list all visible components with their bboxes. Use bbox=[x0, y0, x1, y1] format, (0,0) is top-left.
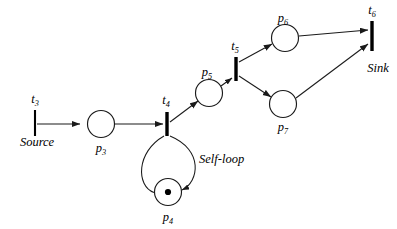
arc-layer bbox=[37, 30, 368, 193]
label-t6: t6 bbox=[368, 3, 376, 19]
arc-t4-p5 bbox=[170, 101, 198, 122]
label-p4: p4 bbox=[162, 210, 173, 226]
label-p6: p6 bbox=[277, 11, 289, 27]
label-layer: t3 t4 t5 t6 p3 p4 p5 p6 bbox=[20, 3, 389, 226]
label-p5: p5 bbox=[201, 65, 212, 81]
arc-t5-p7 bbox=[239, 76, 271, 97]
label-p7: p7 bbox=[277, 120, 289, 136]
arc-t5-p6 bbox=[239, 44, 272, 62]
petri-net-diagram: t3 t4 t5 t6 p3 p4 p5 p6 bbox=[0, 0, 397, 229]
label-t3: t3 bbox=[31, 92, 39, 108]
arc-p7-t6 bbox=[296, 44, 368, 98]
arc-p6-t6 bbox=[299, 30, 368, 36]
place-p7[interactable] bbox=[270, 91, 297, 118]
label-t4: t4 bbox=[162, 93, 170, 109]
arc-p5-t5 bbox=[221, 78, 232, 86]
token-p4 bbox=[165, 189, 171, 195]
place-p3[interactable] bbox=[88, 111, 115, 138]
annotation-source: Source bbox=[20, 135, 55, 149]
annotation-sink: Sink bbox=[367, 61, 389, 75]
label-t5: t5 bbox=[231, 39, 239, 55]
annotation-self-loop: Self-loop bbox=[199, 152, 244, 166]
petri-net-canvas: t3 t4 t5 t6 p3 p4 p5 p6 bbox=[0, 0, 397, 229]
place-p6[interactable] bbox=[272, 25, 299, 52]
label-p3: p3 bbox=[95, 141, 106, 157]
place-p5[interactable] bbox=[196, 80, 223, 107]
